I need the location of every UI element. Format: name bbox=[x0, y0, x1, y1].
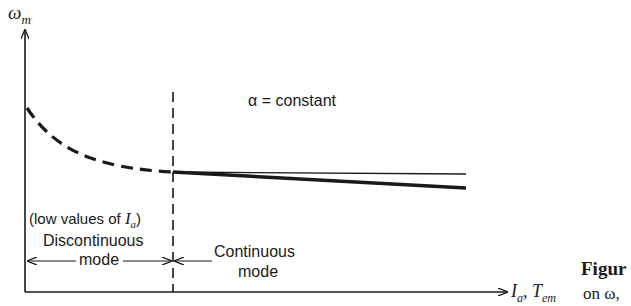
caption-text-fragment: on ω, bbox=[583, 284, 620, 304]
alpha-constant-label: α = constant bbox=[248, 92, 336, 110]
omega-symbol: ω bbox=[8, 2, 21, 23]
y-axis-label: ωm bbox=[8, 2, 31, 28]
omega-subscript: m bbox=[21, 12, 30, 27]
discontinuous-curve bbox=[27, 108, 173, 172]
x-label-separator: , bbox=[523, 281, 528, 301]
low-values-label: (low values of Ia) bbox=[29, 209, 141, 230]
discontinuous-label-line2: mode bbox=[79, 251, 119, 269]
tem-symbol: T bbox=[532, 281, 542, 301]
continuous-speed-line bbox=[173, 172, 466, 188]
tem-subscript: em bbox=[542, 291, 556, 305]
x-axis-label: Ia, Tem bbox=[511, 281, 556, 306]
low-values-text: (low values of bbox=[29, 210, 125, 227]
caption-title-fragment: Figur bbox=[581, 258, 626, 280]
continuous-label-line1: Continuous bbox=[214, 243, 295, 261]
continuous-label-line2: mode bbox=[238, 263, 278, 281]
low-values-close: ) bbox=[136, 210, 141, 227]
speed-torque-diagram: ωm α = constant (low values of Ia) Disco… bbox=[0, 0, 631, 306]
discontinuous-label-line1: Discontinuous bbox=[43, 232, 144, 250]
